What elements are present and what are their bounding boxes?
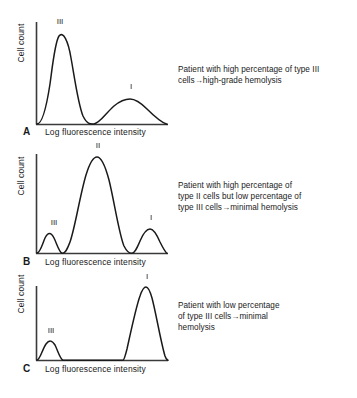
panel-a-y-axis-label: Cell count: [16, 8, 26, 78]
panel-b-chart-svg: [8, 133, 180, 266]
panel-b-caption-line-1: Patient with high percentage of: [178, 180, 301, 191]
panel-c-plot: Cell count III I C Log fluorescence inte…: [8, 265, 180, 398]
panel-b-peak-label-iii: III: [44, 219, 64, 227]
panel-a-plot: Cell count III I A Log fluorescence inte…: [8, 0, 180, 133]
panel-c-chart-svg: [8, 265, 180, 398]
panel-b-curve: [37, 157, 167, 253]
panel-b: Cell count III II I B Log fluorescence i…: [0, 133, 357, 266]
panel-c: Cell count III I C Log fluorescence inte…: [0, 265, 357, 398]
panel-a-peak-label-iii: III: [50, 18, 70, 26]
panel-c-peak-label-i: I: [137, 273, 157, 281]
panel-a-caption: Patient with high percentage of type III…: [178, 64, 319, 86]
panel-b-peak-label-ii: II: [88, 142, 108, 150]
panel-c-caption-line-1: Patient with low percentage: [178, 300, 279, 311]
panel-b-plot: Cell count III II I B Log fluorescence i…: [8, 133, 180, 266]
panel-c-x-axis-label: Log fluorescence intensity: [45, 364, 146, 374]
panel-c-curve: [37, 287, 168, 360]
panel-b-caption: Patient with high percentage of type II …: [178, 180, 301, 214]
panel-a-curve: [37, 35, 167, 125]
panel-b-y-axis-label: Cell count: [16, 141, 26, 211]
panel-b-peak-label-i: I: [141, 214, 161, 222]
panel-c-peak-label-iii: III: [41, 327, 61, 335]
panel-c-caption: Patient with low percentage of type III …: [178, 300, 279, 334]
panel-c-caption-line-2: of type III cells→minimal: [178, 311, 279, 322]
panel-a: Cell count III I A Log fluorescence inte…: [0, 0, 357, 133]
panel-c-letter: C: [23, 364, 30, 374]
panel-b-caption-line-2: type II cells but low percentage of: [178, 191, 301, 202]
panel-a-peak-label-i: I: [121, 83, 141, 91]
panel-c-y-axis-label: Cell count: [16, 259, 26, 329]
panel-b-caption-line-3: type III cells→minimal hemolysis: [178, 202, 301, 213]
panel-a-caption-line-1: Patient with high percentage of type III: [178, 64, 319, 75]
panel-a-chart-svg: [8, 0, 180, 133]
panel-c-caption-line-3: hemolysis: [178, 322, 279, 333]
panel-a-caption-line-2: cells→high-grade hemolysis: [178, 75, 319, 86]
figure-flow-cytometry-histograms: Cell count III I A Log fluorescence inte…: [0, 0, 357, 398]
